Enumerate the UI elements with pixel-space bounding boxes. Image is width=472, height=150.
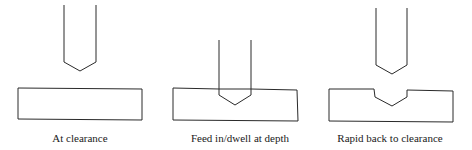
panel-rapid-back — [329, 8, 453, 122]
label-rapid-back: Rapid back to clearance — [337, 132, 442, 144]
drill-tool — [64, 5, 96, 71]
label-feed-in-dwell: Feed in/dwell at depth — [191, 132, 289, 144]
panel-at-clearance — [18, 5, 142, 120]
workpiece — [18, 88, 142, 120]
workpiece — [329, 89, 453, 122]
panel-feed-in-dwell — [173, 40, 298, 121]
drill-tool — [219, 40, 251, 105]
label-at-clearance: At clearance — [52, 132, 107, 144]
machining-diagram — [0, 0, 472, 150]
drill-tool — [376, 8, 407, 74]
